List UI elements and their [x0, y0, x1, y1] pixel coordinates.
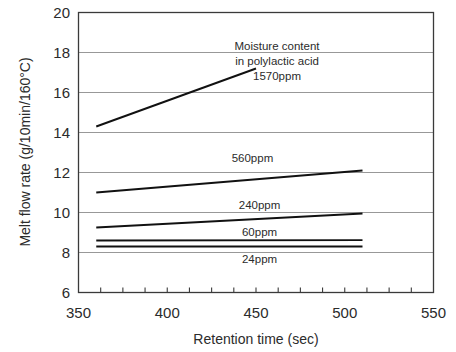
x-tick-label-550: 550	[421, 304, 446, 321]
annotation-line-3: 1570ppm	[253, 70, 301, 82]
x-tick-label-450: 450	[243, 304, 268, 321]
series-label-560ppm: 560ppm	[232, 152, 274, 164]
annotation-line-2: in polylactic acid	[235, 55, 319, 67]
y-tick-label-12: 12	[53, 164, 70, 181]
y-tick-label-20: 20	[53, 4, 70, 21]
series-label-24ppm: 24ppm	[242, 253, 277, 265]
series-label-60ppm: 60ppm	[242, 226, 277, 238]
y-tick-label-6: 6	[62, 284, 70, 301]
y-tick-label-18: 18	[53, 44, 70, 61]
x-tick-label-400: 400	[155, 304, 180, 321]
annotation-line-1: Moisture content	[234, 40, 320, 52]
y-tick-label-8: 8	[62, 244, 70, 261]
y-tick-label-14: 14	[53, 124, 70, 141]
x-tick-label-500: 500	[332, 304, 357, 321]
y-axis-title: Melt flow rate (g/10min/160°C)	[17, 57, 33, 246]
melt-flow-rate-chart: 68101214161820 350400450500550 560ppm240…	[0, 0, 456, 352]
x-tick-label-350: 350	[66, 304, 91, 321]
y-tick-label-16: 16	[53, 84, 70, 101]
chart-canvas: 68101214161820 350400450500550 560ppm240…	[0, 0, 456, 352]
y-tick-label-10: 10	[53, 204, 70, 221]
series-label-240ppm: 240ppm	[239, 199, 281, 211]
x-axis-title: Retention time (sec)	[193, 331, 318, 347]
